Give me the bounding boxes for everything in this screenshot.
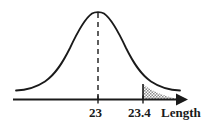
normal-distribution-figure: 23 23.4 Length: [0, 0, 203, 129]
tick-label-mean: 23: [89, 106, 102, 119]
x-axis-arrowhead: [176, 94, 188, 106]
x-axis-title: Length: [161, 106, 201, 119]
tick-label-cutoff: 23.4: [128, 106, 151, 119]
